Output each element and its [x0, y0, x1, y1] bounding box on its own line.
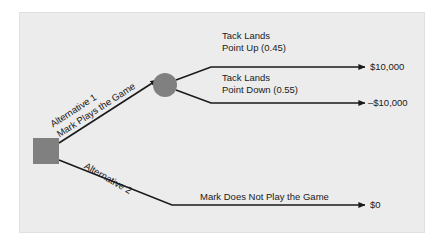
decision-tree-figure: Alternative 1 Mark Plays the Game Altern…	[0, 0, 440, 245]
chance-node-circle	[153, 73, 177, 97]
payoff-point-up: $10,000	[370, 61, 404, 73]
payoff-no-play: $0	[370, 199, 381, 211]
payoff-point-down: –$10,000	[368, 97, 408, 109]
outcome-label-point-down: Tack Lands Point Down (0.55)	[222, 72, 298, 95]
outcome-label-point-up: Tack Lands Point Up (0.45)	[222, 30, 286, 53]
outcome-point-up-line-1: Tack Lands	[222, 30, 286, 42]
outcome-point-down-line-1: Tack Lands	[222, 72, 298, 84]
decision-node-square	[33, 138, 59, 164]
outcome-label-no-play: Mark Does Not Play the Game	[200, 191, 329, 203]
outcome-point-up-line-2: Point Up (0.45)	[222, 42, 286, 54]
outcome-point-down-line-2: Point Down (0.55)	[222, 84, 298, 96]
